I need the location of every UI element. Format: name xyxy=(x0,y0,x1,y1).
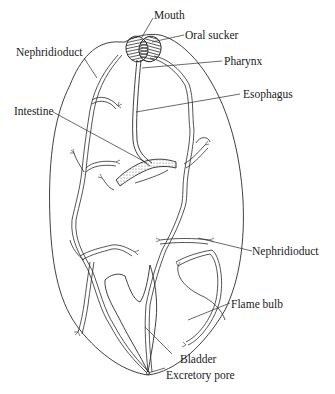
flame-bulbs xyxy=(70,102,214,347)
label-oral-sucker: Oral sucker xyxy=(185,29,238,41)
label-mouth: Mouth xyxy=(154,9,185,21)
body-outline xyxy=(50,34,244,375)
label-pharynx: Pharynx xyxy=(224,55,262,67)
label-excretory-pore: Excretory pore xyxy=(166,369,235,381)
label-flame-bulb: Flame bulb xyxy=(231,298,283,310)
label-esophagus: Esophagus xyxy=(243,88,293,100)
intestine xyxy=(116,159,176,186)
label-intestine: Intestine xyxy=(14,105,54,117)
label-nephridioduct-top: Nephridioduct xyxy=(16,46,82,58)
pharynx-esophagus xyxy=(133,60,152,166)
label-nephridioduct-right: Nephridioduct xyxy=(252,245,318,257)
flatworm-drawing xyxy=(0,0,335,394)
label-bladder: Bladder xyxy=(180,353,216,365)
oral-sucker xyxy=(124,34,164,65)
nephridioducts xyxy=(70,55,225,372)
diagram: Mouth Oral sucker Nephridioduct Pharynx … xyxy=(0,0,335,394)
leader-lines xyxy=(53,18,252,373)
